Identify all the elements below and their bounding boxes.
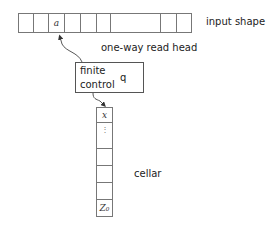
arrows [0, 0, 269, 230]
cellar-cell: x [96, 107, 113, 123]
cellar-cell [96, 182, 113, 200]
finite-control-line1: finite [80, 65, 106, 76]
cellar-cell [96, 165, 113, 183]
read-head-label: one-way read head [101, 42, 197, 53]
finite-control-box: finite control q [75, 62, 144, 93]
cellar-cell: ⋮ [96, 122, 113, 149]
state-label: q [120, 72, 126, 83]
cellar-arrow [93, 93, 104, 105]
finite-control-line2: control [80, 79, 115, 90]
cellar-cell: Z₀ [96, 199, 113, 217]
cellar-cell [96, 148, 113, 166]
cellar-label: cellar [134, 168, 161, 179]
cellar-stack: x⋮Z₀ [96, 107, 113, 216]
read-head-arrow [60, 37, 82, 62]
